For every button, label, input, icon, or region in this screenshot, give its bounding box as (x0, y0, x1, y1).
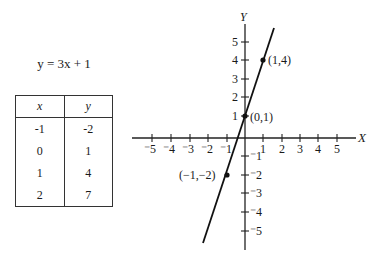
x-tick-labels: ⁻5 ⁻4 ⁻3 ⁻2 ⁻1 1 2 3 4 5 (144, 142, 340, 156)
x-axis-label: X (357, 130, 367, 145)
point-neg1-neg2 (224, 172, 229, 177)
svg-text:⁻1: ⁻1 (220, 142, 232, 156)
svg-text:⁻4: ⁻4 (163, 142, 175, 156)
svg-text:⁻2: ⁻2 (250, 168, 262, 182)
svg-text:3: 3 (232, 72, 238, 86)
svg-text:3: 3 (297, 142, 303, 156)
svg-text:⁻5: ⁻5 (144, 142, 156, 156)
point-label-0-1: (0,1) (250, 110, 273, 124)
svg-text:5: 5 (232, 35, 238, 49)
svg-text:5: 5 (334, 142, 340, 156)
coordinate-plane: X Y ⁻5 ⁻4 ⁻3 ⁻2 ⁻1 1 2 3 4 5 (0, 0, 375, 261)
svg-text:1: 1 (232, 109, 238, 123)
svg-text:⁻3: ⁻3 (182, 142, 194, 156)
y-tick-labels: 5 4 3 2 1 ⁻1 ⁻2 ⁻3 ⁻4 ⁻5 (232, 35, 262, 238)
point-label-1-4: (1,4) (268, 53, 291, 67)
svg-text:⁻2: ⁻2 (201, 142, 213, 156)
svg-text:4: 4 (232, 53, 238, 67)
svg-text:⁻3: ⁻3 (250, 186, 262, 200)
svg-text:4: 4 (315, 142, 321, 156)
svg-text:⁻1: ⁻1 (250, 149, 262, 163)
svg-text:2: 2 (232, 90, 238, 104)
point-0-1 (242, 113, 247, 118)
svg-text:2: 2 (279, 142, 285, 156)
point-label-neg1-neg2: (−1,−2) (179, 168, 216, 182)
point-1-4 (260, 57, 265, 62)
svg-text:⁻4: ⁻4 (250, 205, 262, 219)
svg-text:⁻5: ⁻5 (250, 224, 262, 238)
y-axis-label: Y (240, 10, 248, 24)
